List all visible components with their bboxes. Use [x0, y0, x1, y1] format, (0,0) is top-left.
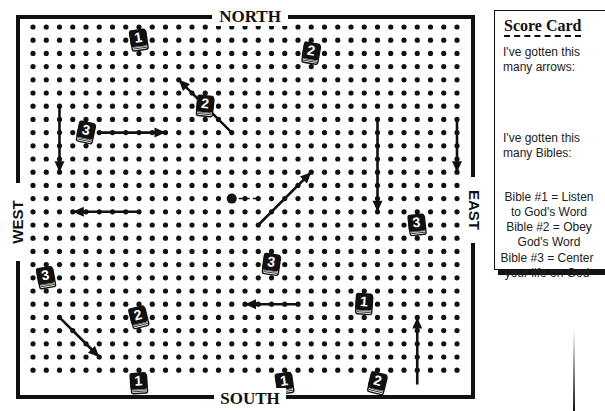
grid-dot [441, 51, 446, 56]
grid-dot [123, 222, 128, 227]
grid-dot [362, 249, 367, 254]
grid-dot [335, 275, 340, 280]
grid-dot [70, 262, 75, 267]
grid-dot [70, 275, 75, 280]
grid-dot [83, 143, 88, 148]
grid-dot [454, 77, 459, 82]
grid-dot [295, 222, 300, 227]
grid-dot [256, 288, 261, 293]
grid-dot [362, 209, 367, 214]
grid-dot [309, 183, 314, 188]
grid-dot [30, 249, 35, 254]
arrows-count-label: I've gotten this many arrows: [503, 45, 580, 75]
grid-dot [362, 117, 367, 122]
grid-dot [150, 38, 155, 43]
grid-dot [362, 130, 367, 135]
grid-dot [415, 77, 420, 82]
grid-dot [123, 196, 128, 201]
bible-book-icon[interactable]: 3 [261, 252, 281, 275]
grid-dot [401, 183, 406, 188]
grid-dot [97, 275, 102, 280]
grid-dot [123, 262, 128, 267]
grid-dot [269, 288, 274, 293]
grid-dot [150, 262, 155, 267]
grid-dot [83, 170, 88, 175]
grid-dot [362, 262, 367, 267]
grid-dot [415, 183, 420, 188]
legend-3-line1: Bible #3 = Center [493, 251, 601, 266]
grid-dot [189, 275, 194, 280]
grid-dot [97, 196, 102, 201]
grid-dot [123, 275, 128, 280]
grid-dot [163, 354, 168, 359]
grid-dot [441, 354, 446, 359]
bible-book-icon[interactable]: 1 [355, 293, 373, 315]
grid-dot [256, 104, 261, 109]
grid-dot [322, 275, 327, 280]
grid-dot [415, 130, 420, 135]
grid-dot [136, 196, 141, 201]
grid-dot [70, 143, 75, 148]
grid-dot [362, 236, 367, 241]
bible-book-icon[interactable]: 2 [195, 94, 214, 117]
grid-dot [242, 262, 247, 267]
grid-dot [216, 236, 221, 241]
grid-dot [388, 51, 393, 56]
grid-dot [203, 170, 208, 175]
bible-book-icon[interactable]: 2 [366, 371, 388, 395]
grid-dot [295, 315, 300, 320]
grid-dot [388, 196, 393, 201]
grid-dot [428, 117, 433, 122]
grid-dot [203, 236, 208, 241]
bible-book-icon[interactable]: 2 [301, 41, 321, 65]
grid-dot [189, 51, 194, 56]
legend-2-line1: Bible #2 = Obey [495, 220, 603, 235]
grid-dot [282, 328, 287, 333]
grid-dot [83, 38, 88, 43]
grid-dot [242, 170, 247, 175]
grid-dot [150, 117, 155, 122]
grid-dot [401, 38, 406, 43]
grid-dot [269, 183, 274, 188]
grid-dot [83, 77, 88, 82]
grid-dot [441, 209, 446, 214]
grid-dot [150, 90, 155, 95]
grid-dot [229, 209, 234, 214]
grid-dot [216, 64, 221, 69]
grid-dot [309, 143, 314, 148]
grid-dot [136, 236, 141, 241]
bible-book-icon[interactable]: 3 [407, 213, 426, 236]
grid-dot [309, 249, 314, 254]
grid-dot [362, 77, 367, 82]
bible-book-icon[interactable]: 3 [35, 266, 55, 290]
grid-dot [269, 341, 274, 346]
grid-dot [44, 90, 49, 95]
grid-dot [163, 38, 168, 43]
grid-dot [441, 117, 446, 122]
grid-dot [123, 143, 128, 148]
grid-dot [176, 64, 181, 69]
grid-dot [348, 236, 353, 241]
grid-dot [44, 143, 49, 148]
grid-dot [282, 143, 287, 148]
bible-book-icon[interactable]: 1 [129, 28, 149, 51]
grid-dot [163, 117, 168, 122]
grid-dot [70, 130, 75, 135]
grid-dot [70, 196, 75, 201]
bible-book-icon[interactable]: 2 [128, 305, 150, 329]
bible-book-icon[interactable]: 1 [129, 372, 147, 394]
grid-dot [70, 354, 75, 359]
grid-dot [150, 341, 155, 346]
grid-dot [97, 249, 102, 254]
grid-dot [136, 90, 141, 95]
player-marker[interactable] [227, 194, 237, 204]
grid-dot [348, 38, 353, 43]
grid-dot [30, 183, 35, 188]
bible-book-icon[interactable]: 3 [75, 120, 96, 144]
grid-dot [242, 354, 247, 359]
grid-dot [322, 130, 327, 135]
grid-dot [335, 143, 340, 148]
legend-3-line2: your life on God [493, 266, 601, 281]
grid-dot [322, 328, 327, 333]
arrow-down-center-right [373, 119, 383, 211]
